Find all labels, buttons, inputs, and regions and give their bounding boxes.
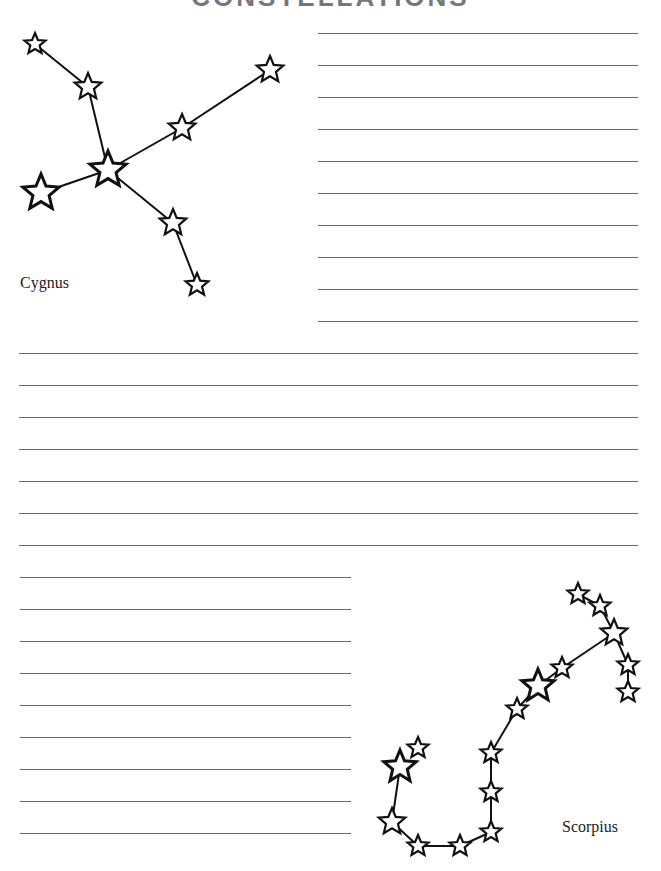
star-icon xyxy=(450,835,471,855)
star-icon xyxy=(169,114,196,139)
star-icon xyxy=(481,821,502,841)
star-icon xyxy=(601,619,628,644)
star-icon xyxy=(23,174,59,208)
star-icon xyxy=(160,209,187,234)
star-icon xyxy=(257,56,284,81)
star-icon xyxy=(186,273,209,295)
star-icon xyxy=(408,737,429,757)
constellation-art xyxy=(0,0,661,871)
constellation-edge xyxy=(182,70,270,128)
scorpius-constellation xyxy=(379,583,639,855)
constellation-edge xyxy=(35,44,88,87)
star-icon xyxy=(75,73,102,98)
cygnus-label: Cygnus xyxy=(20,274,69,292)
star-icon xyxy=(618,681,639,701)
star-icon xyxy=(568,583,589,603)
scorpius-label: Scorpius xyxy=(562,818,618,836)
star-icon xyxy=(522,669,554,700)
star-icon xyxy=(481,781,502,801)
star-icon xyxy=(618,654,639,674)
cygnus-constellation xyxy=(23,33,283,295)
star-icon xyxy=(590,595,611,615)
star-icon xyxy=(481,742,502,762)
